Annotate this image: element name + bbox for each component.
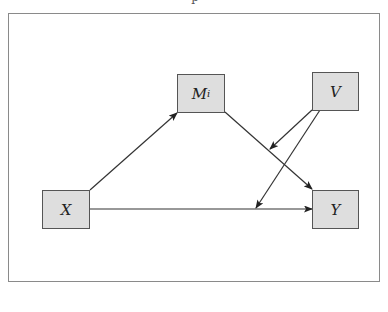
node-x-label: X: [61, 201, 72, 219]
node-predictor-x: X: [42, 190, 90, 229]
node-moderator-v: V: [312, 72, 359, 111]
node-y-label: Y: [331, 201, 341, 219]
node-mediator-m: Mi: [177, 74, 225, 113]
edge-v-moderates-m-y: [270, 110, 312, 149]
edge-x-to-m: [90, 113, 177, 190]
node-m-label: M: [192, 85, 207, 103]
node-v-label: V: [330, 83, 341, 101]
edge-v-moderates-x-y: [256, 110, 320, 208]
node-m-subscript: i: [207, 88, 210, 99]
edges-layer: [0, 0, 388, 312]
edge-m-to-y: [225, 112, 312, 189]
node-outcome-y: Y: [312, 190, 359, 229]
